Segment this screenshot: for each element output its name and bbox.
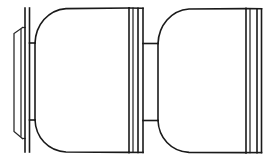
part-outline-drawing bbox=[0, 0, 266, 160]
technical-drawing-canvas bbox=[0, 0, 266, 160]
